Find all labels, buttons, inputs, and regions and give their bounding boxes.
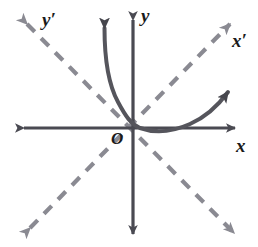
rotated-axes-parabola-figure: x y x′ y′ O xyxy=(0,0,258,247)
axis-label-y: y xyxy=(141,6,149,25)
origin-label: O xyxy=(111,130,123,147)
figure-canvas xyxy=(0,0,258,247)
axis-label-x: x xyxy=(236,136,246,155)
axis-label-y-prime: y′ xyxy=(42,10,56,29)
parabola-curve xyxy=(105,28,229,131)
axis-label-x-prime: x′ xyxy=(232,31,247,50)
